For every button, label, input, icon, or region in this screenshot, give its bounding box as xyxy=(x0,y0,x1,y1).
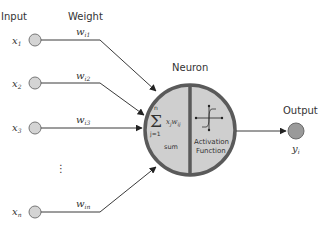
input-sub-n: n xyxy=(18,211,22,218)
svg-text:x2: x2 xyxy=(12,78,22,90)
weight-sub-1: i1 xyxy=(85,31,91,38)
weight-sub-3: i3 xyxy=(85,119,91,126)
output-circle xyxy=(288,123,304,139)
weight-sub-n: in xyxy=(85,203,91,210)
input-circle-2 xyxy=(29,77,41,89)
sum-upper-limit: n xyxy=(154,104,158,111)
neuron-header: Neuron xyxy=(172,62,208,73)
svg-text:xn: xn xyxy=(12,206,22,218)
output-sub: i xyxy=(298,148,300,155)
svg-text:yi: yi xyxy=(291,143,300,155)
input-header: Input xyxy=(1,11,27,22)
svg-text:win: win xyxy=(76,198,90,210)
svg-text:x3: x3 xyxy=(12,122,22,134)
input-sub-1: 1 xyxy=(18,40,22,47)
input-sub-2: 2 xyxy=(17,83,22,90)
sum-term-w-sub: ij xyxy=(178,121,182,128)
input-node-n: xn win xyxy=(12,167,156,218)
sum-label: sum xyxy=(164,143,178,151)
output-node: yi xyxy=(288,123,304,155)
neuron: n Σ j=1 xjwij sum Activation Function xyxy=(145,85,235,175)
input-sub-3: 3 xyxy=(18,127,22,134)
input-circle-n xyxy=(29,206,41,218)
sum-lower-limit: j=1 xyxy=(149,130,161,138)
neuron-diagram: Input Weight Neuron Output x1 wi1 x2 wi2… xyxy=(0,0,319,231)
weight-sub-2: i2 xyxy=(85,75,91,82)
svg-text:wi3: wi3 xyxy=(76,114,90,126)
ellipsis: ⋮ xyxy=(56,163,66,174)
connection-arrow-2 xyxy=(41,83,144,115)
input-node-2: x2 wi2 xyxy=(12,70,144,115)
svg-text:wi2: wi2 xyxy=(76,70,90,82)
input-node-3: x3 wi3 xyxy=(12,114,142,134)
output-header: Output xyxy=(283,105,318,116)
svg-text:wi1: wi1 xyxy=(76,26,90,38)
activation-label-line2: Function xyxy=(196,147,226,155)
svg-text:x1: x1 xyxy=(12,35,21,47)
input-circle-3 xyxy=(29,122,41,134)
activation-label-line1: Activation xyxy=(194,138,229,146)
weight-header: Weight xyxy=(68,11,103,22)
sigma-icon: Σ xyxy=(150,111,162,131)
input-circle-1 xyxy=(29,34,41,46)
